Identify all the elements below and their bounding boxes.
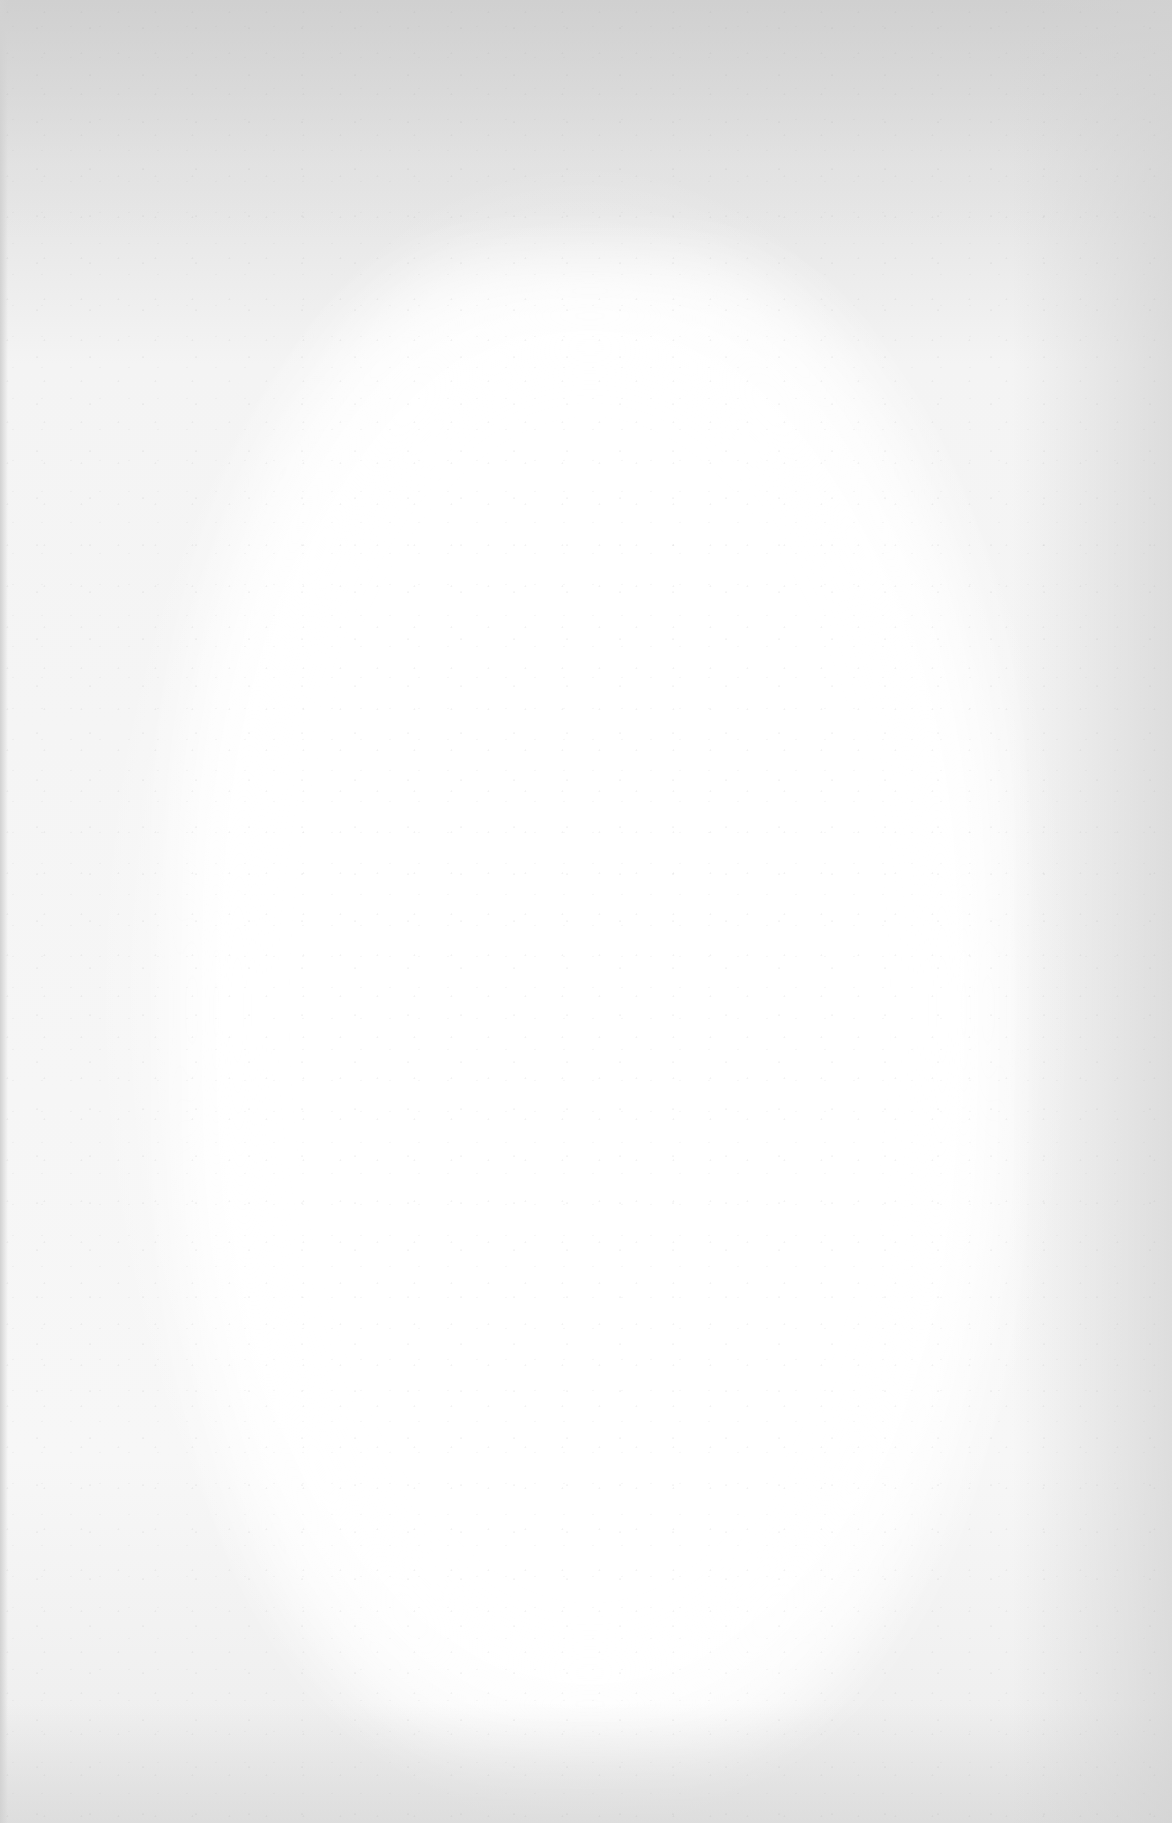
paper-fiber-texture: [0, 0, 1172, 1823]
blank-paper-page: [0, 0, 1172, 1823]
